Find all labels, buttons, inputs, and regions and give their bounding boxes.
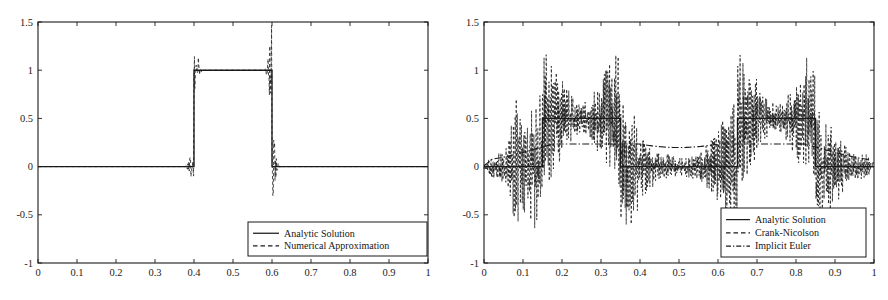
- legend-label: Analytic Solution: [755, 214, 826, 225]
- y-tick-label: 0.5: [20, 113, 33, 124]
- series-numerical-approximation: [38, 26, 428, 196]
- x-tick-label: 0.2: [109, 267, 122, 278]
- legend[interactable]: Analytic SolutionCrank-NicolsonImplicit …: [721, 208, 866, 257]
- data-series: [484, 55, 874, 231]
- x-tick-label: 0.1: [70, 267, 83, 278]
- legend-label: Analytic Solution: [284, 228, 355, 239]
- y-tick-label: 0: [474, 161, 479, 172]
- x-tick-label: 0.1: [516, 267, 529, 278]
- y-tick-label: 1: [28, 65, 33, 76]
- x-tick-label: 0.4: [187, 267, 201, 278]
- x-tick-label: 0.6: [265, 267, 278, 278]
- x-tick-label: 0.4: [633, 267, 647, 278]
- data-series: [38, 26, 428, 196]
- y-tick-label: 1.5: [20, 17, 33, 28]
- x-tick-label: 0.5: [672, 267, 685, 278]
- y-tick-label: -0.5: [16, 209, 33, 220]
- y-tick-label: -1: [470, 258, 479, 269]
- y-tick-label: -1: [24, 258, 33, 269]
- x-tick-label: 0.6: [711, 267, 724, 278]
- x-tick-label: 0: [481, 267, 486, 278]
- x-tick-label: 0: [35, 267, 40, 278]
- y-tick-label: 1: [474, 65, 479, 76]
- x-tick-label: 0.2: [555, 267, 568, 278]
- x-tick-label: 0.9: [828, 267, 841, 278]
- x-tick-label: 0.8: [789, 267, 802, 278]
- x-tick-label: 0.7: [304, 267, 317, 278]
- x-tick-label: 1: [425, 267, 430, 278]
- x-tick-label: 1: [871, 267, 876, 278]
- x-tick-label: 0.3: [148, 267, 161, 278]
- right-plot-svg: 00.10.20.30.40.50.60.70.80.91-1-0.500.51…: [444, 0, 888, 300]
- figure-container: 00.10.20.30.40.50.60.70.80.91-1-0.500.51…: [0, 0, 888, 300]
- x-tick-label: 0.5: [226, 267, 239, 278]
- chart-panel-right: 00.10.20.30.40.50.60.70.80.91-1-0.500.51…: [444, 0, 888, 300]
- y-tick-label: 0: [28, 161, 33, 172]
- chart-panel-left: 00.10.20.30.40.50.60.70.80.91-1-0.500.51…: [0, 0, 444, 300]
- y-tick-label: 1.5: [466, 17, 479, 28]
- y-tick-label: 0.5: [466, 113, 479, 124]
- x-tick-label: 0.8: [343, 267, 356, 278]
- legend-label: Crank-Nicolson: [755, 227, 819, 238]
- x-tick-label: 0.7: [750, 267, 763, 278]
- left-plot-svg: 00.10.20.30.40.50.60.70.80.91-1-0.500.51…: [0, 0, 444, 300]
- x-tick-label: 0.3: [594, 267, 607, 278]
- legend-label: Implicit Euler: [755, 240, 811, 251]
- y-tick-label: -0.5: [462, 209, 479, 220]
- x-tick-label: 0.9: [382, 267, 395, 278]
- series-analytic-solution: [38, 70, 428, 166]
- legend-label: Numerical Approximation: [284, 240, 389, 251]
- legend[interactable]: Analytic SolutionNumerical Approximation: [248, 222, 427, 256]
